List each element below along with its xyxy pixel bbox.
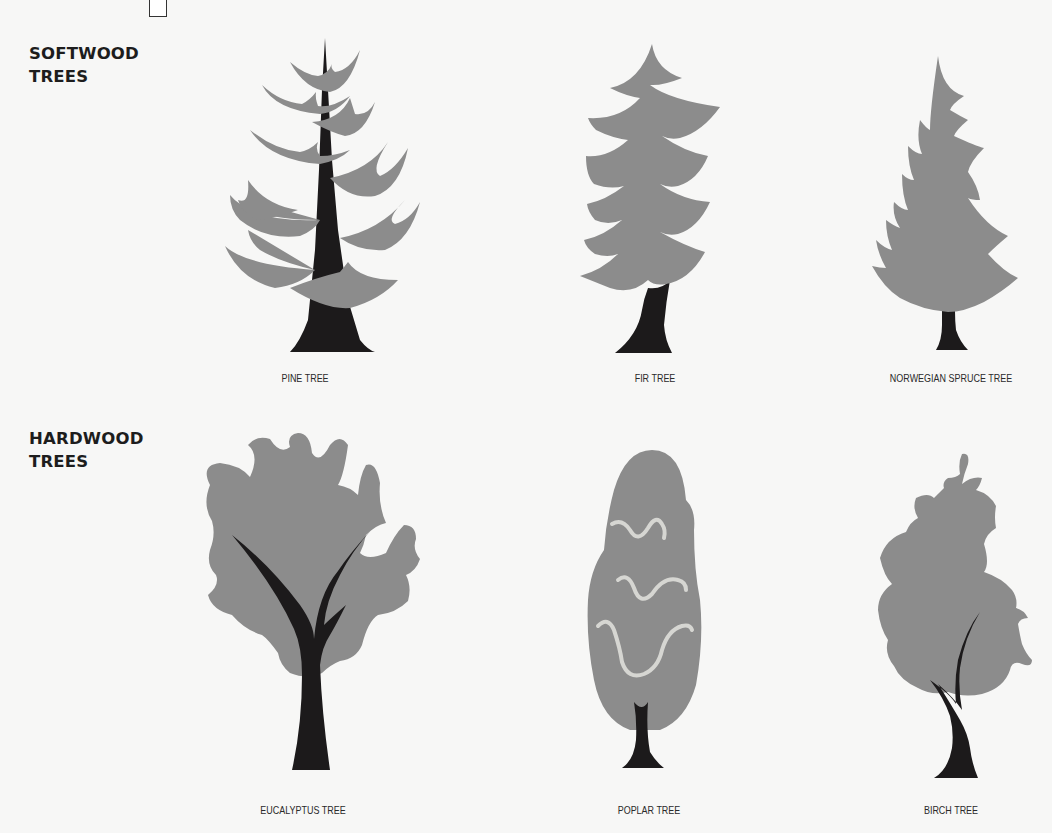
caption-text: POPLAR TREE [618, 804, 681, 816]
caption-norwegian-spruce-tree: NORWEGIAN SPRUCE TREE [873, 372, 1030, 384]
corner-box [149, 0, 167, 17]
caption-text: NORWEGIAN SPRUCE TREE [890, 372, 1012, 384]
fir-tree-icon [570, 40, 740, 355]
poplar-tree-icon [582, 440, 722, 785]
caption-fir-tree: FIR TREE [629, 372, 681, 384]
caption-poplar-tree: POPLAR TREE [609, 804, 689, 816]
pine-tree-icon [220, 30, 420, 360]
caption-text: BIRCH TREE [924, 804, 978, 816]
eucalyptus-tree-icon [190, 425, 430, 785]
section-label-softwood: SOFTWOOD TREES [29, 42, 139, 88]
caption-birch-tree: BIRCH TREE [916, 804, 985, 816]
caption-text: EUCALYPTUS TREE [260, 804, 345, 816]
caption-text: PINE TREE [281, 372, 328, 384]
caption-pine-tree: PINE TREE [275, 372, 336, 384]
caption-text: FIR TREE [635, 372, 676, 384]
section-label-hardwood: HARDWOOD TREES [29, 427, 144, 473]
norwegian-spruce-tree-icon [868, 50, 1038, 355]
birch-tree-icon [872, 448, 1032, 793]
caption-eucalyptus-tree: EUCALYPTUS TREE [248, 804, 358, 816]
